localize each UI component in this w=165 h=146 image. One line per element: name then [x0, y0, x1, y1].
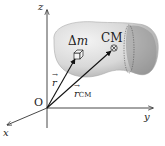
x-axis-label: x — [3, 128, 9, 138]
delta-symbol: Δ — [68, 34, 77, 48]
vector-arrow-glyph: → — [74, 83, 80, 90]
vector-r-cm-label: → rCM — [74, 89, 91, 99]
mass-variable: m — [77, 34, 88, 48]
center-of-mass-label: CM — [101, 32, 122, 44]
mass-element-label: Δm — [68, 35, 88, 47]
vector-r-cm-subscript: CM — [79, 91, 92, 99]
diagram-canvas — [0, 0, 165, 146]
z-axis-label: z — [38, 2, 43, 12]
mass-element-cube — [74, 50, 83, 59]
x-axis — [7, 108, 47, 125]
vector-r-label: → r — [52, 78, 57, 88]
y-axis-label: y — [144, 112, 150, 122]
vector-arrow-glyph: → — [52, 72, 58, 79]
origin-label: O — [34, 97, 43, 108]
